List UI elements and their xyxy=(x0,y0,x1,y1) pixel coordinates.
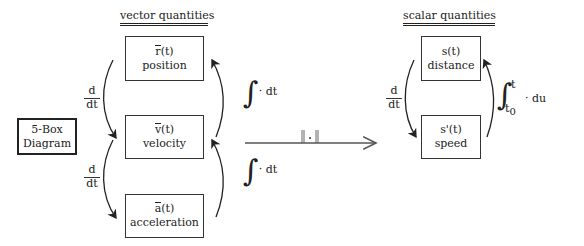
acceleration-arg: (t) xyxy=(161,202,174,215)
distance-box: s(t) distance xyxy=(421,36,481,81)
acceleration-label: acceleration xyxy=(130,216,199,230)
five-box-line1: 5-Box xyxy=(31,123,63,137)
distance-arg: (t) xyxy=(447,45,460,58)
position-arg: (t) xyxy=(161,45,174,58)
integral-label-bottom: ∫· dt xyxy=(243,156,277,186)
velocity-box: v(t) velocity xyxy=(125,115,204,159)
integral-label-top: ∫· dt xyxy=(243,78,277,108)
integral-label-scalar: ∫ t t0 · du xyxy=(497,78,577,118)
velocity-label: velocity xyxy=(143,137,186,151)
derivative-label-top: d dt xyxy=(84,85,100,111)
speed-arg: (t) xyxy=(449,123,462,136)
derivative-label-bottom: d dt xyxy=(84,164,100,190)
position-symbol: r xyxy=(155,45,160,59)
velocity-arg: (t) xyxy=(161,123,174,136)
speed-label: speed xyxy=(435,137,468,151)
acceleration-symbol: a xyxy=(155,202,162,216)
integral-tail: · du xyxy=(525,92,546,105)
integral-sign-icon: ∫ xyxy=(243,153,259,188)
five-box-diagram-label: 5-Box Diagram xyxy=(17,118,77,155)
speed-box: s'(t) speed xyxy=(421,115,481,159)
derivative-label-scalar: d dt xyxy=(386,85,402,111)
position-box: r(t) position xyxy=(125,36,204,81)
vector-quantities-heading: vector quantities xyxy=(120,9,208,26)
upper-limit: t xyxy=(511,78,515,91)
lower-limit: t0 xyxy=(505,102,516,117)
integral-sign-icon: ∫ xyxy=(243,75,259,110)
connector-arrows xyxy=(0,0,584,246)
speed-symbol: s' xyxy=(440,123,449,136)
distance-label: distance xyxy=(428,59,475,73)
five-box-line2: Diagram xyxy=(23,137,71,151)
velocity-symbol: v xyxy=(155,123,161,137)
acceleration-box: a(t) acceleration xyxy=(125,194,204,238)
scalar-quantities-heading: scalar quantities xyxy=(403,9,495,26)
position-label: position xyxy=(142,59,186,73)
